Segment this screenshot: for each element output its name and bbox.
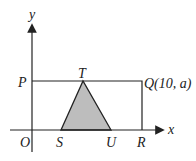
point-r-label: R — [136, 135, 146, 150]
point-s-label: S — [56, 135, 63, 150]
point-u-label: U — [106, 135, 117, 150]
y-axis-label: y — [27, 7, 36, 22]
diagram-canvas: y x O P T Q(10, a) S U R — [0, 0, 196, 161]
origin-label: O — [20, 135, 30, 150]
point-t-label: T — [78, 66, 87, 81]
triangle-stu — [61, 81, 111, 130]
point-p-label: P — [17, 75, 27, 90]
x-axis-label: x — [167, 122, 175, 137]
point-q-label: Q(10, a) — [144, 76, 192, 92]
